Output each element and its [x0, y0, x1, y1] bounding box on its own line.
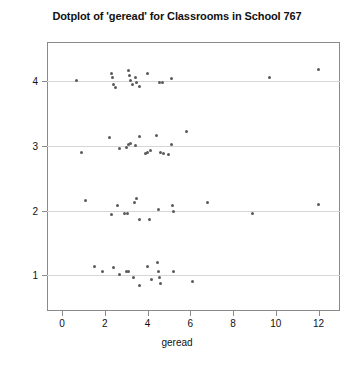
data-point	[156, 261, 159, 264]
gridline-y-4	[47, 81, 340, 82]
x-tick-mark-2	[105, 311, 106, 316]
data-point	[138, 135, 141, 138]
y-tick-label-3: 3	[0, 140, 38, 151]
x-tick-label-4: 4	[133, 318, 163, 329]
data-point	[167, 153, 170, 156]
data-point	[125, 146, 128, 149]
data-point	[101, 270, 104, 273]
data-point	[158, 276, 161, 279]
data-point	[317, 203, 320, 206]
data-point	[93, 265, 96, 268]
data-point	[133, 201, 136, 204]
x-tick-mark-8	[233, 311, 234, 316]
data-point	[149, 149, 152, 152]
data-point	[162, 152, 165, 155]
data-point	[159, 282, 162, 285]
plot-area	[47, 42, 340, 311]
x-tick-label-0: 0	[47, 318, 77, 329]
data-point	[127, 69, 130, 72]
data-point	[126, 212, 129, 215]
data-point	[80, 151, 83, 154]
data-point	[146, 265, 149, 268]
chart-title: Dotplot of 'geread' for Classrooms in Sc…	[0, 10, 354, 22]
y-tick-mark-4	[42, 81, 47, 82]
data-point	[114, 86, 117, 89]
x-tick-label-2: 2	[90, 318, 120, 329]
data-point	[84, 199, 87, 202]
data-point	[110, 72, 113, 75]
data-point	[155, 134, 158, 137]
y-tick-label-2: 2	[0, 205, 38, 216]
data-point	[146, 72, 149, 75]
data-point	[161, 81, 164, 84]
y-tick-label-1: 1	[0, 270, 38, 281]
y-tick-mark-2	[42, 211, 47, 212]
data-point	[157, 208, 160, 211]
data-point	[157, 270, 160, 273]
data-point	[191, 280, 194, 283]
data-point	[129, 142, 132, 145]
gridline-y-3	[47, 146, 340, 147]
x-axis-label: geread	[0, 337, 354, 348]
data-point	[112, 266, 115, 269]
data-point	[134, 144, 137, 147]
data-point	[134, 76, 137, 79]
data-point	[111, 76, 114, 79]
data-point	[268, 76, 271, 79]
data-point	[150, 278, 153, 281]
data-point	[118, 273, 121, 276]
data-point	[75, 79, 78, 82]
data-point	[206, 201, 209, 204]
data-point	[118, 147, 121, 150]
y-tick-label-4: 4	[0, 75, 38, 86]
data-point	[170, 143, 173, 146]
data-point	[317, 68, 320, 71]
data-point	[110, 213, 113, 216]
data-point	[129, 79, 132, 82]
x-tick-mark-6	[190, 311, 191, 316]
dotplot-figure: Dotplot of 'geread' for Classrooms in Sc…	[0, 0, 354, 368]
data-point	[127, 270, 130, 273]
x-tick-label-8: 8	[218, 318, 248, 329]
x-tick-mark-4	[148, 311, 149, 316]
data-point	[251, 212, 254, 215]
data-point	[138, 284, 141, 287]
x-tick-mark-0	[62, 311, 63, 316]
y-tick-mark-1	[42, 275, 47, 276]
data-point	[132, 276, 135, 279]
data-point	[172, 270, 175, 273]
x-tick-label-6: 6	[175, 318, 205, 329]
data-point	[128, 74, 131, 77]
data-point	[148, 218, 151, 221]
x-tick-label-10: 10	[261, 318, 291, 329]
data-point	[185, 130, 188, 133]
gridline-y-1	[47, 275, 340, 276]
x-tick-mark-10	[276, 311, 277, 316]
data-point	[138, 218, 141, 221]
data-point	[172, 210, 175, 213]
data-point	[170, 77, 173, 80]
data-point	[171, 204, 174, 207]
data-point	[131, 83, 134, 86]
x-tick-mark-12	[319, 311, 320, 316]
x-tick-label-12: 12	[304, 318, 334, 329]
data-point	[116, 204, 119, 207]
data-point	[138, 85, 141, 88]
data-point	[108, 136, 111, 139]
gridline-y-2	[47, 211, 340, 212]
data-point	[135, 197, 138, 200]
data-point	[135, 81, 138, 84]
y-tick-mark-3	[42, 146, 47, 147]
